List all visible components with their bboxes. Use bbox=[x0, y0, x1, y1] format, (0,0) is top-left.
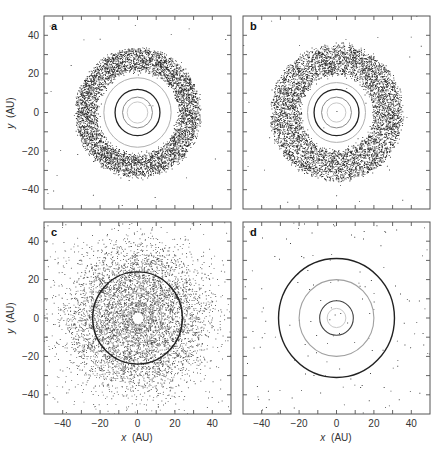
x-tick-label: −40 bbox=[253, 418, 270, 429]
ticks bbox=[44, 16, 231, 209]
scatter-points bbox=[226, 203, 447, 434]
panel-d: −40−2002040d bbox=[226, 203, 447, 434]
orbit-circle bbox=[104, 78, 171, 147]
x-tick-label: −40 bbox=[54, 418, 71, 429]
panel-label-b: b bbox=[250, 20, 257, 32]
panel-a: −40−2002040a bbox=[22, 16, 231, 209]
x-tick-label: −20 bbox=[92, 418, 109, 429]
y-axis-title-bottom: y (AU) bbox=[5, 302, 16, 334]
x-tick-label: −20 bbox=[291, 418, 308, 429]
y-tick-label: −40 bbox=[22, 389, 39, 400]
y-tick-label: 20 bbox=[28, 274, 40, 285]
scatter-points bbox=[48, 25, 227, 206]
ticks bbox=[243, 222, 430, 414]
y-tick-label: −20 bbox=[22, 351, 39, 362]
x-axis-title-right: x (AU) bbox=[319, 432, 351, 443]
x-tick-label: 20 bbox=[368, 418, 380, 429]
orbit-circle bbox=[299, 280, 374, 357]
orbit-circle bbox=[320, 301, 354, 336]
orbit-circle bbox=[327, 103, 346, 122]
axes-frame bbox=[44, 222, 231, 414]
orbit-circle bbox=[279, 258, 395, 377]
orbit-circle bbox=[123, 303, 153, 334]
orbit-circles bbox=[279, 258, 395, 377]
orbit-circle bbox=[314, 89, 359, 135]
panel-label-d: d bbox=[250, 226, 257, 238]
x-tick-label: 20 bbox=[169, 418, 181, 429]
y-axis-title-top: y (AU) bbox=[5, 97, 16, 129]
x-tick-label: 40 bbox=[207, 418, 219, 429]
y-tick-label: 40 bbox=[28, 30, 40, 41]
x-tick-label: 0 bbox=[334, 418, 340, 429]
x-tick-label: 0 bbox=[135, 418, 141, 429]
ticks bbox=[44, 222, 231, 414]
panel-label-c: c bbox=[51, 226, 57, 238]
panel-label-a: a bbox=[51, 20, 58, 32]
orbit-circle bbox=[308, 83, 366, 143]
x-tick-label: 40 bbox=[406, 418, 418, 429]
y-tick-label: 20 bbox=[28, 68, 40, 79]
orbit-circles bbox=[308, 83, 366, 143]
scatter-points bbox=[243, 16, 421, 203]
figure-canvas: −40−2002040a b −40−2002040−40−2002040c −… bbox=[0, 0, 447, 453]
orbit-circle bbox=[127, 102, 148, 123]
x-axis-title-left: x (AU) bbox=[120, 432, 152, 443]
orbit-circle bbox=[322, 97, 352, 128]
axes-frame bbox=[44, 16, 231, 209]
orbit-circle bbox=[115, 89, 160, 135]
panel-c: −40−2002040−40−2002040c bbox=[22, 204, 250, 434]
y-tick-label: −40 bbox=[22, 184, 39, 195]
axes-frame bbox=[243, 222, 430, 414]
panel-b: b bbox=[243, 16, 430, 209]
y-tick-label: 0 bbox=[33, 313, 39, 324]
y-tick-label: 40 bbox=[28, 236, 40, 247]
orbit-circles bbox=[104, 78, 171, 147]
scatter-points bbox=[25, 204, 250, 434]
y-tick-label: 0 bbox=[33, 107, 39, 118]
y-tick-label: −20 bbox=[22, 146, 39, 157]
orbit-circle bbox=[327, 308, 346, 327]
